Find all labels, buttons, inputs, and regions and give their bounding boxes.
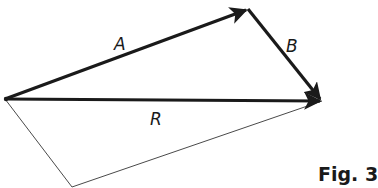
figure-caption: Fig. 3 (318, 163, 378, 185)
vector-b-label: B (286, 36, 298, 56)
vector-a-label: A (113, 34, 126, 54)
vector-b-arrow (248, 9, 320, 99)
vector-r-label: R (150, 109, 162, 129)
vector-r-arrow (5, 99, 320, 101)
construction-line-bottom (72, 101, 322, 187)
origin-point (4, 97, 8, 101)
vector-a-arrow (5, 10, 246, 99)
construction-line-left (5, 99, 72, 187)
